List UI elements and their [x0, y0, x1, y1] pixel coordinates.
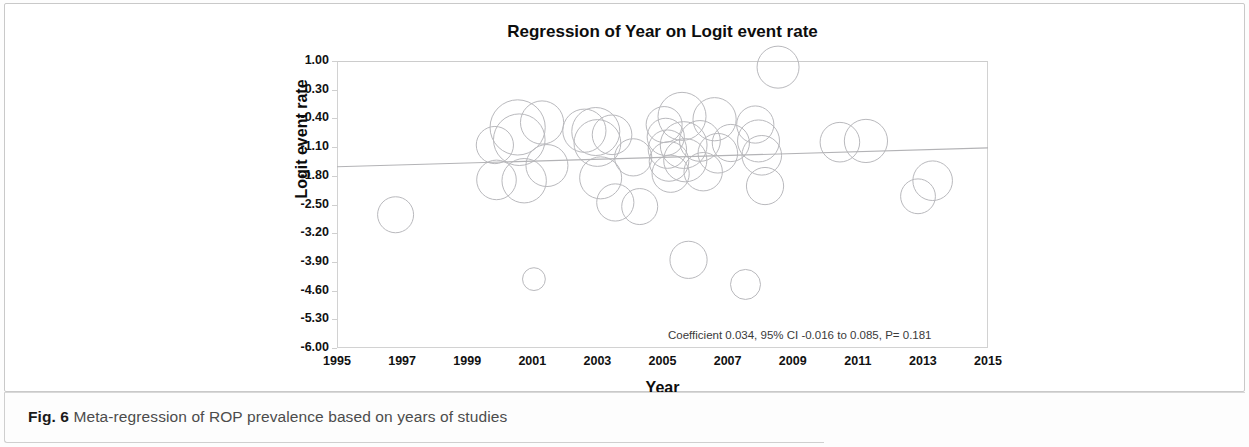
bubble-marker: [493, 114, 545, 166]
regression-line: [337, 148, 988, 167]
x-axis-tick-label: 2011: [828, 354, 888, 368]
bubble-marker: [649, 142, 689, 182]
x-axis-tick-label: 2015: [958, 354, 1018, 368]
figure-caption-text: Meta-regression of ROP prevalence based …: [69, 408, 507, 425]
bubble-marker: [698, 133, 738, 173]
bubble-markers-group: [378, 46, 953, 299]
figure-caption: Fig. 6 Meta-regression of ROP prevalence…: [28, 408, 507, 426]
y-axis-tick-mark: [332, 319, 337, 320]
bubble-marker: [913, 161, 953, 201]
bubble-marker: [563, 109, 606, 152]
bubble-marker: [622, 189, 658, 225]
y-axis-tick-mark: [332, 61, 337, 62]
y-axis-tick-mark: [332, 118, 337, 119]
y-axis-tick-mark: [332, 233, 337, 234]
x-axis-tick-label: 1999: [437, 354, 497, 368]
y-axis-tick-label: -3.90: [277, 254, 329, 268]
bubble-marker: [820, 122, 860, 162]
bubble-marker: [597, 184, 634, 221]
y-axis-tick-label: -6.00: [277, 340, 329, 354]
bubble-marker: [670, 241, 707, 278]
bubble-marker: [378, 197, 414, 233]
bubble-marker: [731, 269, 761, 299]
y-axis-title: Logit event rate: [293, 69, 311, 209]
y-axis-tick-mark: [332, 262, 337, 263]
y-axis-tick-mark: [332, 348, 337, 349]
y-axis-tick-mark: [332, 291, 337, 292]
x-axis-tick-label: 1995: [307, 354, 367, 368]
bubble-marker: [844, 119, 887, 162]
x-axis-tick-label: 1997: [372, 354, 432, 368]
meta-regression-chart: Regression of Year on Logit event rate 1…: [0, 0, 1249, 392]
figure-container: Regression of Year on Logit event rate 1…: [0, 0, 1249, 447]
scatter-plot-canvas: [337, 61, 988, 348]
bubble-marker: [658, 92, 706, 140]
y-axis-tick-label: 1.00: [277, 53, 329, 67]
y-axis-tick-label: -4.60: [277, 283, 329, 297]
bubble-marker: [526, 145, 568, 187]
x-axis-tick-label: 2013: [893, 354, 953, 368]
x-axis-tick-label: 2001: [502, 354, 562, 368]
y-axis-tick-label: -5.30: [277, 311, 329, 325]
x-axis-tick-label: 2007: [698, 354, 758, 368]
bubble-marker: [757, 46, 799, 88]
bubble-marker: [477, 160, 517, 200]
chart-title: Regression of Year on Logit event rate: [337, 22, 988, 42]
bubble-marker: [523, 268, 546, 291]
figure-number: Fig. 6: [28, 408, 69, 425]
y-axis-tick-mark: [332, 176, 337, 177]
y-axis-tick-label: -3.20: [277, 225, 329, 239]
bubble-marker: [520, 101, 563, 144]
bubble-marker: [738, 120, 780, 162]
y-axis-tick-mark: [332, 147, 337, 148]
y-axis-tick-mark: [332, 205, 337, 206]
x-axis-tick-label: 2003: [567, 354, 627, 368]
bubble-marker: [901, 179, 936, 214]
x-axis-tick-label: 2009: [763, 354, 823, 368]
bubble-marker: [664, 139, 707, 182]
regression-statistics-annotation: Coefficient 0.034, 95% CI -0.016 to 0.08…: [668, 329, 932, 341]
bubble-marker: [746, 167, 783, 204]
bubble-marker: [737, 106, 774, 143]
x-axis-tick-label: 2005: [633, 354, 693, 368]
y-axis-tick-mark: [332, 90, 337, 91]
